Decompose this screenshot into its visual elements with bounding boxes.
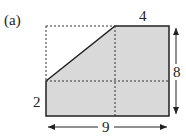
figure-label: (a) <box>4 12 21 29</box>
left-dimension-label: 2 <box>33 94 41 110</box>
top-dimension-label: 4 <box>139 8 147 24</box>
shaded-shape <box>46 26 169 116</box>
right-dimension-label: 8 <box>173 64 181 80</box>
bottom-dimension-label: 9 <box>102 119 110 135</box>
diagram: (a) 4 8 2 9 <box>0 0 186 136</box>
